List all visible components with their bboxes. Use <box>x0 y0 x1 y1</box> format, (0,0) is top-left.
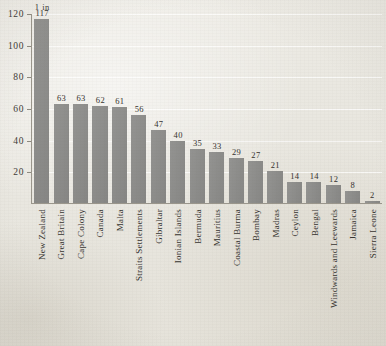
y-tick-mark <box>27 46 31 47</box>
bar-slot: 21 <box>265 14 284 204</box>
bar[interactable]: 61 <box>112 107 127 204</box>
category-slot: Coastal Burma <box>227 206 246 344</box>
bar[interactable]: 12 <box>326 185 341 204</box>
bar-slot: 62 <box>90 14 109 204</box>
y-tick-mark <box>27 77 31 78</box>
bar-value-label: 27 <box>251 150 260 160</box>
x-axis-category-labels: New ZealandGreat BritainCape ColonyCanad… <box>32 206 383 344</box>
category-slot: Sierra Leone <box>363 206 382 344</box>
bar-slot: 14 <box>285 14 304 204</box>
category-slot: Great Britain <box>51 206 70 344</box>
category-slot: Malta <box>110 206 129 344</box>
y-tick-mark <box>27 14 31 15</box>
category-slot: Ionian Islands <box>168 206 187 344</box>
bar-value-label: 2 <box>370 190 375 200</box>
bar[interactable]: 33 <box>209 152 224 204</box>
bar-slot: 117 <box>32 14 51 204</box>
category-label: Windwards and Leewards <box>329 209 339 308</box>
bar[interactable]: 21 <box>267 171 282 204</box>
category-label: Mauritius <box>212 209 222 246</box>
category-label: Coastal Burma <box>232 209 242 266</box>
bar[interactable]: 40 <box>170 141 185 204</box>
category-label: Canada <box>95 209 105 238</box>
bar-value-label: 56 <box>135 104 144 114</box>
category-label: Ceylon <box>290 209 300 237</box>
category-slot: Bermuda <box>188 206 207 344</box>
category-label: Bombay <box>251 209 261 241</box>
category-label: Sierra Leone <box>368 209 378 258</box>
category-label: Great Britain <box>56 209 66 259</box>
y-tick-label: 80 <box>0 72 24 82</box>
bar[interactable]: 56 <box>131 115 146 204</box>
bar[interactable]: 14 <box>306 182 321 204</box>
y-tick-mark <box>27 109 31 110</box>
bar-value-label: 63 <box>57 93 66 103</box>
category-slot: Bombay <box>246 206 265 344</box>
bar-value-label: 21 <box>271 160 280 170</box>
bar[interactable]: 62 <box>92 106 107 204</box>
y-tick-label: 60 <box>0 104 24 114</box>
bar-slot: 63 <box>51 14 70 204</box>
bar[interactable]: 63 <box>73 104 88 204</box>
y-tick-mark <box>27 141 31 142</box>
category-label: Jamaica <box>348 209 358 240</box>
bar-value-label: 12 <box>329 174 338 184</box>
bar-value-label: 61 <box>115 96 124 106</box>
bar-slot: 12 <box>324 14 343 204</box>
bar[interactable]: 14 <box>287 182 302 204</box>
bar-slot: 47 <box>149 14 168 204</box>
category-slot: Windwards and Leewards <box>324 206 343 344</box>
y-tick-label: 100 <box>0 41 24 51</box>
bar-series: 11763636261564740353329272114141282 <box>32 14 382 204</box>
plot-area: 11763636261564740353329272114141282 <box>31 14 382 204</box>
bar[interactable]: 47 <box>151 130 166 204</box>
bar-slot: 8 <box>343 14 362 204</box>
chart-figure: 11763636261564740353329272114141282 2040… <box>0 0 386 346</box>
category-slot: Cape Colony <box>71 206 90 344</box>
bar-value-label: 14 <box>290 171 299 181</box>
category-slot: Ceylon <box>285 206 304 344</box>
bar[interactable]: 27 <box>248 161 263 204</box>
category-slot: Jamaica <box>344 206 363 344</box>
category-slot: Canada <box>90 206 109 344</box>
bar[interactable]: 117 <box>34 19 49 204</box>
bar-slot: 27 <box>246 14 265 204</box>
bar-value-label: 40 <box>174 130 183 140</box>
y-tick-label: 120 <box>0 9 24 19</box>
category-slot: Straits Settlements <box>129 206 148 344</box>
y-tick-label: 40 <box>0 136 24 146</box>
y-axis-line <box>31 14 32 204</box>
bar-slot: 33 <box>207 14 226 204</box>
bar-value-label: 14 <box>310 171 319 181</box>
bar[interactable]: 29 <box>229 158 244 204</box>
bar-value-label: 35 <box>193 138 202 148</box>
bar-value-label: 62 <box>96 95 105 105</box>
bar-slot: 40 <box>168 14 187 204</box>
category-label: Cape Colony <box>76 209 86 259</box>
category-label: Ionian Islands <box>173 209 183 263</box>
category-label: Madras <box>271 209 281 238</box>
category-label: Gibraltar <box>154 209 164 244</box>
bar-slot: 14 <box>304 14 323 204</box>
y-tick-label: 20 <box>0 167 24 177</box>
bar-value-label: 63 <box>76 93 85 103</box>
bar-slot: 35 <box>188 14 207 204</box>
category-slot: Mauritius <box>207 206 226 344</box>
x-axis-line <box>31 203 382 204</box>
bar-slot: 2 <box>362 14 381 204</box>
bar-value-label: 29 <box>232 147 241 157</box>
y-tick-mark <box>27 172 31 173</box>
top-annotation: 1 in <box>35 2 50 12</box>
category-slot: New Zealand <box>32 206 51 344</box>
bar[interactable]: 35 <box>190 149 205 204</box>
category-label: Bengal <box>310 209 320 236</box>
bar-slot: 61 <box>110 14 129 204</box>
bar-slot: 29 <box>226 14 245 204</box>
bar[interactable]: 63 <box>54 104 69 204</box>
bar-slot: 63 <box>71 14 90 204</box>
bar-value-label: 47 <box>154 119 163 129</box>
category-slot: Madras <box>266 206 285 344</box>
category-label: Malta <box>115 209 125 231</box>
bar-value-label: 8 <box>351 180 356 190</box>
category-slot: Gibraltar <box>149 206 168 344</box>
